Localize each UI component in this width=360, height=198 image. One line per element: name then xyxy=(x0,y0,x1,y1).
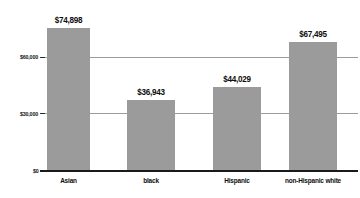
bar-non-hispanic-white[interactable] xyxy=(289,42,337,170)
plot-area: $60,000 $30,000 $0 $74,898 $36,943 $44,0… xyxy=(0,0,360,198)
bar-hispanic[interactable] xyxy=(213,87,261,170)
category-label-hispanic: Hispanic xyxy=(205,176,270,185)
bar-black[interactable] xyxy=(127,100,175,170)
bar-value-hispanic: $44,029 xyxy=(205,74,270,84)
bar-value-non-hispanic-white: $67,495 xyxy=(281,29,346,39)
bar-value-asian: $74,898 xyxy=(37,15,101,25)
y-tick-label-30000: $30,000 xyxy=(20,110,38,117)
y-tick-label-60000: $60,000 xyxy=(20,53,38,60)
category-label-non-hispanic-white: non-Hispanic white xyxy=(273,176,352,185)
y-tick-label-0: $0 xyxy=(32,167,38,174)
bar-asian[interactable] xyxy=(47,28,90,170)
category-label-asian: Asian xyxy=(37,176,101,185)
category-label-black: black xyxy=(119,176,184,185)
bar-value-black: $36,943 xyxy=(119,87,184,97)
tick-mark-60000 xyxy=(40,57,45,58)
x-axis-baseline xyxy=(40,170,358,172)
tick-mark-30000 xyxy=(40,113,45,114)
bar-chart: $60,000 $30,000 $0 $74,898 $36,943 $44,0… xyxy=(0,0,360,198)
